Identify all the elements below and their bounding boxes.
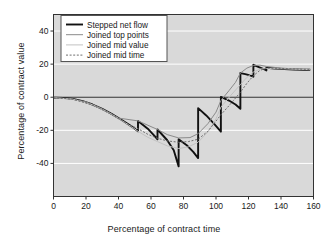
y-tick-label: 20 <box>39 59 49 69</box>
x-tick-label: 120 <box>241 201 255 211</box>
legend-label-3: Joined mid time <box>87 51 145 60</box>
chart-legend: Stepped net flowJoined top pointsJoined … <box>61 16 167 62</box>
plot-area: 020406080100120140160 40200-20-40 Steppe… <box>0 0 328 245</box>
legend-label-1: Joined top points <box>87 31 149 40</box>
legend-label-0: Stepped net flow <box>87 21 148 30</box>
chart-container: Percentage of contract value Percentage … <box>0 0 328 245</box>
y-tick-label: 0 <box>44 92 49 102</box>
y-tick-label: -40 <box>36 158 49 168</box>
y-tick-label: 40 <box>39 26 49 36</box>
x-tick-label: 100 <box>209 201 223 211</box>
legend-label-2: Joined mid value <box>87 41 149 50</box>
x-tick-label: 0 <box>51 201 56 211</box>
y-tick-label: -20 <box>36 125 49 135</box>
x-tick-label: 60 <box>146 201 156 211</box>
x-tick-label: 20 <box>81 201 91 211</box>
y-axis-ticks: 40200-20-40 <box>36 26 53 168</box>
x-axis-ticks: 020406080100120140160 <box>51 197 321 211</box>
x-tick-label: 160 <box>306 201 320 211</box>
x-tick-label: 140 <box>274 201 288 211</box>
x-tick-label: 80 <box>179 201 189 211</box>
x-tick-label: 40 <box>114 201 124 211</box>
